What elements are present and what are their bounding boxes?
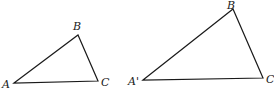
vertex-label-c: C [101,76,110,89]
vertex-label-b-2: B [226,0,235,12]
vertex-label-c-2: C [266,73,274,86]
triangle-abc: A B C [1,20,110,91]
similar-triangles-diagram: A B C A' B C [0,0,274,91]
vertex-label-b: B [72,20,81,33]
vertex-label-a: A [1,78,10,91]
triangle-a-prime: A' B C [127,0,274,88]
triangle-a-prime-outline [143,9,263,80]
triangle-abc-outline [14,35,98,83]
vertex-label-a-prime: A' [127,75,139,88]
